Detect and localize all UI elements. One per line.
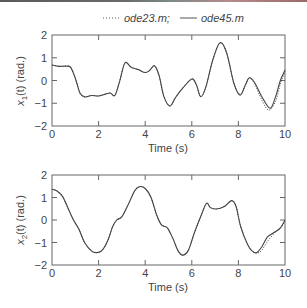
series-ode45-line — [52, 187, 285, 256]
x-tick-label: 10 — [279, 128, 291, 140]
x-tick-label: 8 — [235, 128, 241, 140]
x-tick-label: 10 — [279, 267, 291, 279]
x-tick-label: 0 — [49, 128, 55, 140]
axis-ticks — [52, 35, 285, 126]
x-axis-title: Time (s) — [148, 281, 188, 293]
x-tick-label: 6 — [189, 267, 195, 279]
x-tick-label: 2 — [96, 128, 102, 140]
axis-ticks — [52, 175, 285, 265]
plot-frame — [52, 175, 285, 265]
y-tick-label: −1 — [34, 237, 47, 249]
y-axis-title: x1(t) (rad.) — [14, 56, 29, 107]
y-tick-label: −2 — [34, 259, 47, 271]
legend-label-ode45: ode45.m — [201, 12, 244, 24]
y-tick-label: 2 — [41, 169, 47, 181]
y-tick-label: 0 — [41, 214, 47, 226]
x-tick-label: 6 — [189, 128, 195, 140]
y-tick-label: 0 — [41, 75, 47, 87]
subplot-x1: 0246810−2−1012 Time (s) x1(t) (rad.) — [14, 29, 291, 154]
y-tick-label: 1 — [41, 192, 47, 204]
x-tick-label: 0 — [49, 267, 55, 279]
y-tick-label: −1 — [34, 97, 47, 109]
y-tick-label: −2 — [34, 120, 47, 132]
plot-frame — [52, 35, 285, 126]
y-tick-label: 2 — [41, 29, 47, 41]
series-ode23-line — [52, 187, 285, 256]
subplot-x2: 0246810−2−1012 Time (s) x2(t) (rad.) — [14, 169, 291, 293]
legend-label-ode23: ode23.m; — [124, 12, 170, 24]
legend: ode23.m; ode45.m — [103, 12, 244, 24]
y-tick-label: 1 — [41, 52, 47, 64]
x-tick-label: 4 — [142, 128, 148, 140]
x-tick-label: 4 — [142, 267, 148, 279]
tick-labels: 0246810−2−1012 — [34, 29, 291, 140]
series-ode23-line — [52, 43, 285, 111]
tick-labels: 0246810−2−1012 — [34, 169, 291, 279]
y-axis-title: x2(t) (rad.) — [14, 195, 29, 246]
x-tick-label: 8 — [235, 267, 241, 279]
figure: ode23.m; ode45.m 0246810−2−1012 Time (s)… — [0, 0, 307, 308]
x-axis-title: Time (s) — [148, 142, 188, 154]
x-tick-label: 2 — [96, 267, 102, 279]
series-ode45-line — [52, 43, 285, 109]
